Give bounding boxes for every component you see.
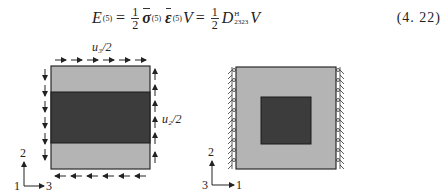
right-axis-horizontal-label: 1 [236, 178, 242, 193]
left-axis-origin-label: 1 [14, 179, 20, 193]
right-figure [212, 67, 344, 185]
right-inclusion [261, 97, 311, 144]
left-axis-horizontal-label: 3 [46, 179, 52, 193]
left-figure [24, 60, 155, 186]
right-displacement-label: u₂/2 [162, 112, 182, 127]
left-inner-band [51, 92, 150, 143]
right-axis-origin-label: 3 [202, 178, 208, 193]
right-supports [337, 67, 345, 169]
top-displacement-label: u₃/2 [92, 40, 112, 55]
left-supports [228, 67, 236, 169]
left-axes [24, 162, 44, 186]
figure [0, 0, 445, 193]
right-axes [212, 161, 234, 185]
left-axis-vertical-label: 2 [20, 146, 26, 161]
right-axis-vertical-label: 2 [208, 145, 214, 160]
